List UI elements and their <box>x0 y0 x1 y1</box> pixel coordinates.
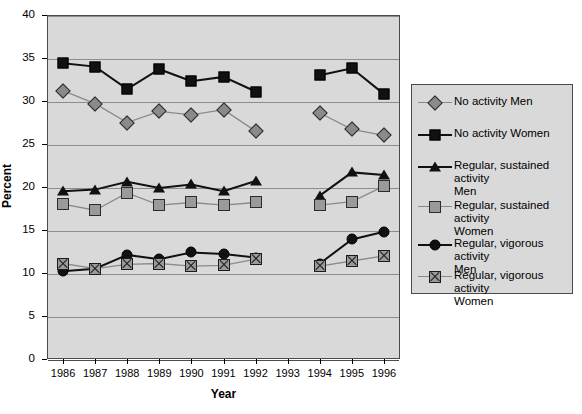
data-point-marker <box>346 63 357 74</box>
x-axis-title: Year <box>164 387 284 401</box>
legend-label: No activity Men <box>452 95 533 108</box>
data-point-marker <box>218 71 229 82</box>
data-point-marker <box>89 184 101 194</box>
data-point-marker <box>121 176 133 186</box>
data-point-marker <box>121 187 133 199</box>
data-point-marker <box>346 255 358 267</box>
data-point-marker <box>122 83 133 94</box>
data-point-marker <box>153 182 165 192</box>
legend-label: Regular, sustained activity Men <box>452 159 570 198</box>
data-point-marker <box>250 196 262 208</box>
data-point-marker <box>154 64 165 75</box>
data-point-marker <box>89 204 101 216</box>
legend-marker-icon <box>418 270 452 284</box>
legend-item-2[interactable]: Regular, sustained activity Men <box>418 159 570 198</box>
legend-item-0[interactable]: No activity Men <box>418 95 570 110</box>
data-point-marker <box>314 70 325 81</box>
legend-item-3[interactable]: Regular, sustained activity Women <box>418 199 570 238</box>
data-point-marker <box>58 58 69 69</box>
data-point-marker <box>378 250 390 262</box>
data-point-marker <box>218 199 230 211</box>
data-point-marker <box>121 258 133 270</box>
data-point-marker <box>346 234 357 245</box>
data-point-marker <box>153 258 165 270</box>
chart-root: 0510152025303540 19861987198819891990199… <box>0 0 582 414</box>
y-axis-title: Percent <box>0 146 14 226</box>
legend-label: Regular, vigorous activity Women <box>452 269 570 308</box>
data-point-marker <box>378 169 390 179</box>
legend-label: Regular, sustained activity Women <box>452 199 570 238</box>
data-point-marker <box>90 61 101 72</box>
data-point-marker <box>57 198 69 210</box>
data-point-marker <box>346 196 358 208</box>
data-point-marker <box>314 199 326 211</box>
legend-marker-icon <box>418 128 452 142</box>
legend-label: No activity Women <box>452 127 550 140</box>
data-point-marker <box>250 86 261 97</box>
legend-marker-icon <box>418 96 452 110</box>
data-point-marker <box>186 76 197 87</box>
data-point-marker <box>346 167 358 177</box>
legend-marker-icon <box>418 238 452 252</box>
data-point-marker <box>57 258 69 270</box>
data-point-marker <box>185 260 197 272</box>
data-point-marker <box>57 186 69 196</box>
legend: No activity MenNo activity WomenRegular,… <box>411 84 573 294</box>
data-point-marker <box>378 180 390 192</box>
data-point-marker <box>186 247 197 258</box>
legend-marker-icon <box>418 160 452 174</box>
data-point-marker <box>378 89 389 100</box>
data-point-marker <box>378 226 389 237</box>
data-point-marker <box>89 263 101 275</box>
data-point-marker <box>185 179 197 189</box>
data-point-marker <box>185 196 197 208</box>
data-point-marker <box>250 253 262 265</box>
data-point-marker <box>218 259 230 271</box>
data-point-marker <box>218 186 230 196</box>
data-point-marker <box>314 260 326 272</box>
data-point-marker <box>250 175 262 185</box>
legend-marker-icon <box>418 200 452 214</box>
data-point-marker <box>153 199 165 211</box>
legend-item-5[interactable]: Regular, vigorous activity Women <box>418 269 570 308</box>
legend-item-1[interactable]: No activity Women <box>418 127 570 142</box>
data-point-marker <box>218 249 229 260</box>
